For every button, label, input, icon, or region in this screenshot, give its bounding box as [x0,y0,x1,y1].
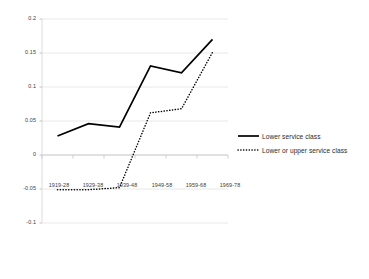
y-axis-tick-label: 0.2 [2,15,36,21]
y-axis-tick-label: 0.05 [2,117,36,123]
series-line-1 [58,39,213,136]
y-axis-tick-label: -0.05 [2,185,36,191]
y-axis-tick-label: 0.1 [2,83,36,89]
y-axis-tick-label: 0.15 [2,49,36,55]
legend-item-label-solid: Lower service class [262,133,320,140]
x-axis-tick-label: 1969-78 [208,182,252,188]
y-axis-tick-label: 0 [2,151,36,157]
line-chart: 0.2 0.15 0.1 0.05 0 -0.05 -0.1 1919-28 1… [0,0,369,279]
y-axis-tick-label: -0.1 [2,219,36,225]
legend-item-label-dotted: Lower or upper service class [262,147,347,154]
